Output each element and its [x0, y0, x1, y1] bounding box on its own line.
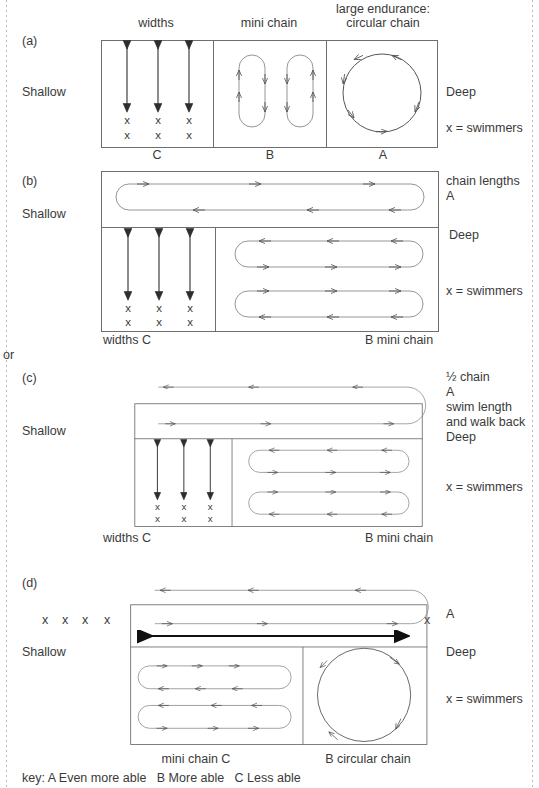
svg-text:x: x: [125, 302, 131, 314]
panel-a-deep: Deep: [446, 85, 476, 99]
header-large-endurance-line1: large endurance:: [336, 2, 430, 16]
panel-b-tag: (b): [22, 174, 37, 188]
panel-c-swim-length: swim length: [446, 400, 512, 414]
panel-d-bottom-label-circular: B circular chain: [325, 752, 410, 766]
svg-text:x: x: [208, 501, 213, 512]
svg-text:x: x: [156, 302, 162, 314]
panel-a-mini-chain-loops: [239, 55, 313, 127]
panel-b-label-a: A: [446, 189, 454, 203]
panel-b-shallow: Shallow: [22, 207, 66, 221]
svg-text:x: x: [125, 316, 131, 328]
panel-a-width-arrows: [127, 47, 189, 110]
panel-c-half-chain-loop: [158, 387, 425, 424]
panel-c-mini-chain-loop-1: [249, 450, 409, 472]
svg-text:x: x: [186, 114, 192, 126]
svg-text:x: x: [155, 129, 161, 141]
svg-text:x: x: [124, 114, 130, 126]
panel-c-bottom-label-mini: B mini chain: [365, 531, 433, 545]
panel-a-swimmer-marks: x x x x x x: [124, 114, 192, 141]
svg-text:x: x: [181, 501, 186, 512]
panel-c-width-arrows: [157, 445, 210, 498]
header-widths: widths: [138, 16, 173, 30]
panel-d-tag: (d): [22, 576, 37, 590]
panel-c-key-x: x = swimmers: [446, 480, 523, 494]
panel-a-key-x: x = swimmers: [446, 121, 523, 135]
svg-text:x: x: [187, 302, 193, 314]
panel-b-deep: Deep: [449, 228, 479, 242]
panel-d-label-a: A: [446, 607, 454, 621]
panel-c-bottom-label-widths: widths C: [103, 531, 151, 545]
svg-text:x: x: [155, 513, 160, 524]
panel-d-shallow: Shallow: [22, 645, 66, 659]
svg-text:x: x: [155, 114, 161, 126]
panel-a-tag: (a): [22, 34, 37, 48]
panel-d-circular-chain: [317, 648, 410, 741]
panel-a-shallow: Shallow: [22, 85, 66, 99]
panel-c-deep: Deep: [446, 430, 476, 444]
svg-text:x: x: [187, 316, 193, 328]
page-edge-right: [532, 0, 533, 788]
panel-b-width-arrows: [128, 235, 190, 298]
panel-b-key-x: x = swimmers: [446, 284, 523, 298]
svg-text:x: x: [124, 129, 130, 141]
panel-b-chain-lengths: chain lengths: [446, 174, 520, 188]
panel-d-queue-x-2: x: [62, 613, 68, 627]
figure-key: key: A Even more able B More able C Less…: [22, 771, 301, 785]
panel-b-chain-length-loop: [116, 184, 424, 210]
panel-a-pool-diagram: x x x x x x: [101, 40, 438, 148]
panel-d-queue-x-3: x: [82, 613, 88, 627]
svg-text:x: x: [208, 513, 213, 524]
svg-text:x: x: [186, 129, 192, 141]
panel-b-bottom-label-widths: widths C: [103, 333, 151, 347]
panel-b-bottom-label-mini: B mini chain: [365, 333, 433, 347]
header-mini-chain: mini chain: [241, 16, 297, 30]
panel-d-key-x: x = swimmers: [446, 692, 523, 706]
panel-b-swimmer-marks: x x x x x x: [125, 302, 193, 328]
panel-c-walk-back: and walk back: [446, 415, 525, 429]
or-connector: or: [3, 348, 14, 362]
panel-b-mini-chain-loop-2: [235, 291, 423, 317]
panel-a-bottom-label-b: B: [266, 148, 274, 162]
svg-text:x: x: [156, 316, 162, 328]
page-edge-left: [6, 0, 7, 788]
panel-d-pool-diagram: [101, 585, 439, 745]
svg-text:x: x: [181, 513, 186, 524]
panel-c-mini-chain-loop-2: [249, 492, 409, 514]
panel-a-bottom-label-a: A: [379, 148, 387, 162]
panel-d-bottom-label-mini: mini chain C: [162, 752, 231, 766]
panel-d-mini-chain-loop-2: [138, 705, 291, 728]
svg-text:x: x: [155, 501, 160, 512]
panel-c-shallow: Shallow: [22, 424, 66, 438]
panel-b-mini-chain-loop-1: [235, 241, 423, 267]
panel-c-tag: (c): [22, 371, 37, 385]
panel-c-half-chain: ½ chain: [446, 370, 490, 384]
panel-d-half-chain-loop: [155, 590, 428, 623]
panel-b-pool-diagram: x x x x x x: [101, 171, 439, 332]
header-circular-chain-line2: circular chain: [346, 16, 420, 30]
panel-a-bottom-label-c: C: [152, 148, 161, 162]
panel-a-circular-chain: [343, 54, 421, 132]
panel-c-swimmer-marks: x x x x x x: [155, 501, 213, 524]
panel-d-mini-chain-loop-1: [138, 666, 291, 689]
panel-c-label-a: A: [446, 385, 454, 399]
panel-d-queue-x-1: x: [42, 613, 48, 627]
panel-c-pool-diagram: x x x x x x: [101, 382, 439, 527]
panel-d-deep: Deep: [446, 645, 476, 659]
